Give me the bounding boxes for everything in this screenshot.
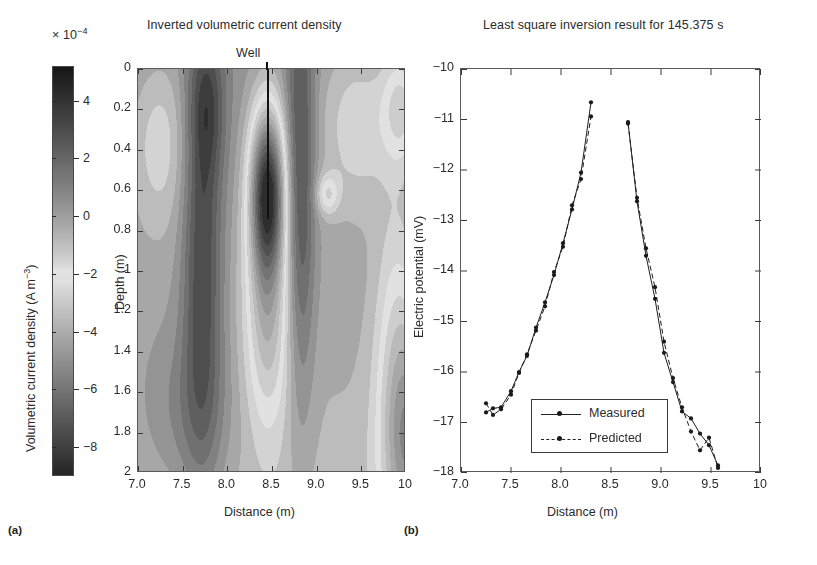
series-marker-predicted [525,352,529,356]
contour-x-tick [317,69,318,74]
well-line [267,69,269,219]
left-panel-title: Inverted volumetric current density [147,18,342,32]
series-line-measured [486,102,591,412]
contour-x-tick [272,69,273,74]
right-xtick-label: 9.5 [696,477,724,491]
well-line-stem [266,62,268,70]
contour-y-tick [399,433,404,434]
contour-plot [137,68,405,472]
series-marker-measured [491,406,495,410]
contour-x-tick [183,69,184,74]
legend-marker-predicted [557,436,562,441]
left-xtick-label: 9.5 [346,477,374,491]
colorbar-tick-label: −4 [83,325,97,339]
left-ytick-label: 1 [95,262,131,276]
right-ytick-label: −12 [416,161,454,175]
left-ytick-label: 1.8 [95,424,131,438]
series-marker-measured [707,443,711,447]
series-marker-predicted [680,405,684,409]
contour-x-tick [361,69,362,74]
colorbar-tick-inner [52,447,56,448]
contour-y-tick [138,109,143,110]
series-marker-predicted [570,203,574,207]
series-marker-predicted [653,285,657,289]
series-marker-predicted [707,436,711,440]
legend-label-predicted: Predicted [589,431,642,445]
contour-y-tick [138,271,143,272]
series-marker-predicted [671,376,675,380]
contour-x-tick [227,466,228,471]
contour-y-tick [399,352,404,353]
series-marker-predicted [517,371,521,375]
right-xtick-label: 8.5 [596,477,624,491]
series-marker-predicted [534,328,538,332]
left-xtick-label: 7.5 [168,477,196,491]
legend: Measured Predicted [531,399,668,453]
colorbar-tick [74,389,79,390]
series-marker-predicted [589,114,593,118]
colorbar-tick-inner [52,332,56,333]
colorbar-tick [74,274,79,275]
left-xtick-label: 8.0 [212,477,240,491]
right-ytick-label: −14 [416,262,454,276]
right-ytick-label: −15 [416,313,454,327]
colorbar-tick-label: 2 [83,151,90,165]
contour-y-tick [399,311,404,312]
series-marker-measured [698,432,702,436]
right-xtick-label: 7.0 [446,477,474,491]
colorbar-tick-inner [52,158,56,159]
right-panel-title: Least square inversion result for 145.37… [483,18,724,32]
left-ytick-label: 0 [95,60,131,74]
contour-y-tick [138,311,143,312]
contour-y-tick [138,190,143,191]
colorbar: 420−2−4−6−8 [52,66,74,476]
series-marker-predicted [689,429,693,433]
contour-y-tick [399,190,404,191]
colorbar-gradient [52,66,74,476]
panel-letter-b: (b) [404,524,419,536]
series-marker-predicted [499,407,503,411]
right-ytick-label: −18 [416,464,454,478]
contour-y-tick [399,231,404,232]
series-marker-predicted [698,448,702,452]
colorbar-axis-label: Volumetric current density (A m−3) [22,265,38,452]
legend-label-measured: Measured [589,406,645,420]
series-marker-predicted [543,304,547,308]
left-ytick-label: 0.2 [95,100,131,114]
left-ytick-label: 2 [95,464,131,478]
left-xaxis-label: Distance (m) [224,505,295,519]
contour-y-tick [138,150,143,151]
contour-x-tick [317,466,318,471]
contour-x-tick [227,69,228,74]
right-xtick-label: 9.0 [646,477,674,491]
well-label: Well [236,46,260,60]
left-ytick-label: 0.4 [95,141,131,155]
series-marker-predicted [552,270,556,274]
right-xtick-label: 8.0 [546,477,574,491]
series-marker-predicted [484,401,488,405]
contour-y-tick [399,150,404,151]
colorbar-tick [74,216,79,217]
figure-root: × 10−4 Volumetric current density (A m−3… [0,0,817,565]
left-ytick-label: 1.6 [95,383,131,397]
right-xtick-label: 10 [746,477,774,491]
right-xaxis-label: Distance (m) [547,505,618,519]
colorbar-tick [74,101,79,102]
right-ytick-label: −13 [416,212,454,226]
contour-y-tick [138,231,143,232]
contour-y-tick [138,69,143,70]
contour-x-tick [361,466,362,471]
left-xtick-label: 8.5 [257,477,285,491]
series-marker-measured [662,351,666,355]
left-xtick-label: 9.0 [302,477,330,491]
series-marker-predicted [561,245,565,249]
colorbar-tick-inner [52,274,56,275]
series-line-predicted [486,116,591,414]
legend-row-predicted: Predicted [532,426,667,453]
contour-canvas [138,69,405,472]
series-marker-predicted [491,413,495,417]
colorbar-tick [74,447,79,448]
contour-y-tick [138,433,143,434]
legend-marker-measured [557,411,562,416]
series-marker-predicted [579,177,583,181]
